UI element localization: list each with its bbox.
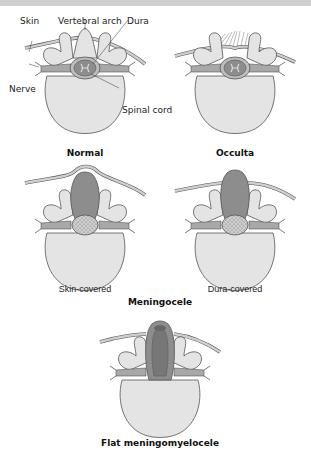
title-occulta: Occulta [216,148,254,158]
panel-normal [25,20,145,134]
label-nerve: Nerve [9,84,36,94]
subtitle-dura-covered: Dura-covered [208,284,263,294]
label-vertebral-arch: Vertebral arch [58,16,122,26]
panel-meningocele-skin-covered [25,167,145,291]
title-normal: Normal [67,148,104,158]
label-skin: Skin [20,16,39,26]
spina-bifida-diagram [0,0,311,455]
subtitle-skin-covered: Skin-covered [59,284,112,294]
panel-meningocele-dura-covered [175,170,295,291]
label-dura: Dura [127,16,149,26]
label-spinal-cord: Spinal cord [122,105,172,115]
panel-occulta [175,31,295,134]
title-flat-meningomyelocele: Flat meningomyelocele [101,438,219,448]
title-meningocele: Meningocele [128,297,192,307]
panel-flat-meningomyelocele [100,321,220,438]
